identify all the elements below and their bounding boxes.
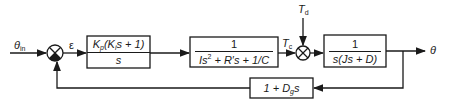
negative-sign-quadrant <box>49 53 60 61</box>
tc-label: Tc <box>282 38 292 50</box>
error-label: ε <box>69 40 74 51</box>
controller-denominator: s <box>87 52 150 66</box>
plant-numerator: 1 <box>348 38 362 51</box>
feedback-block: 1 + Dgs <box>250 78 313 98</box>
feedback-expression: 1 + Dgs <box>263 82 299 95</box>
actuator-denominator: Is2 + R′s + 1/C <box>195 51 273 66</box>
td-label: Td <box>298 4 309 16</box>
plant-denominator: s(Js + D) <box>329 51 381 65</box>
output-label: θ <box>430 45 436 56</box>
actuator-block: 1 Is2 + R′s + 1/C <box>190 37 278 67</box>
plant-block: 1 s(Js + D) <box>324 35 386 67</box>
input-label: θin <box>14 40 25 52</box>
controller-numerator: Kp(Kis + 1) <box>89 38 149 52</box>
controller-block: Kp(Kis + 1) s <box>87 36 150 68</box>
actuator-numerator: 1 <box>227 38 241 51</box>
